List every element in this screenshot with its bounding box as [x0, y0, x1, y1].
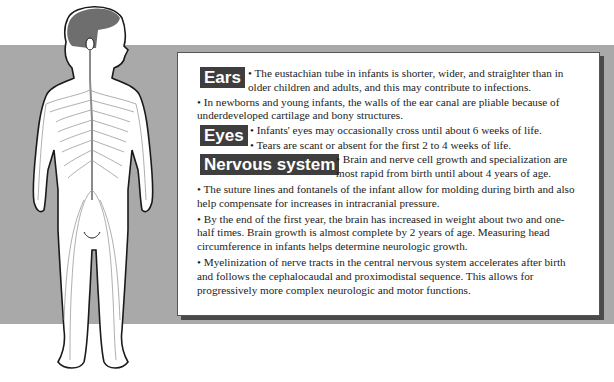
ears-heading: Ears	[200, 67, 245, 88]
nervous-bullet-4-line-2: and follows the cephalocaudal and proxim…	[197, 270, 534, 284]
ears-bullet-1-line-2: older children and adults, and this may …	[248, 81, 531, 95]
nervous-bullet-1-line-1: • Brain and nerve cell growth and specia…	[336, 153, 567, 167]
nervous-bullet-3-line-2: half times. Brain growth is almost compl…	[197, 226, 550, 240]
nervous-bullet-4-line-3: progressively more complex neurologic an…	[197, 284, 471, 298]
ears-bullet-1-line-1: • The eustachian tube in infants is shor…	[248, 67, 563, 81]
eyes-bullet-2: • Tears are scant or absent for the firs…	[250, 139, 511, 153]
child-nervous-system-illustration	[0, 0, 200, 382]
nervous-system-heading: Nervous system	[200, 154, 339, 175]
eyes-heading: Eyes	[200, 125, 248, 146]
ears-bullet-2-line-2: underdeveloped cartilage and bony struct…	[197, 109, 403, 123]
nervous-bullet-3-line-3: circumference in infants helps determine…	[197, 240, 468, 254]
nervous-bullet-3-line-1: • By the end of the first year, the brai…	[197, 213, 565, 227]
nervous-bullet-2-line-2: help compensate for increases in intracr…	[197, 197, 440, 211]
nervous-bullet-4-line-1: • Myelinization of nerve tracts in the c…	[197, 256, 566, 270]
nervous-bullet-2-line-1: • The suture lines and fontanels of the …	[197, 183, 574, 197]
ears-bullet-2-line-1: • In newborns and young infants, the wal…	[197, 96, 559, 110]
nervous-bullet-1-line-2: most rapid from birth until about 4 year…	[336, 167, 551, 181]
eyes-bullet-1: • Infants' eyes may occasionally cross u…	[250, 124, 542, 138]
